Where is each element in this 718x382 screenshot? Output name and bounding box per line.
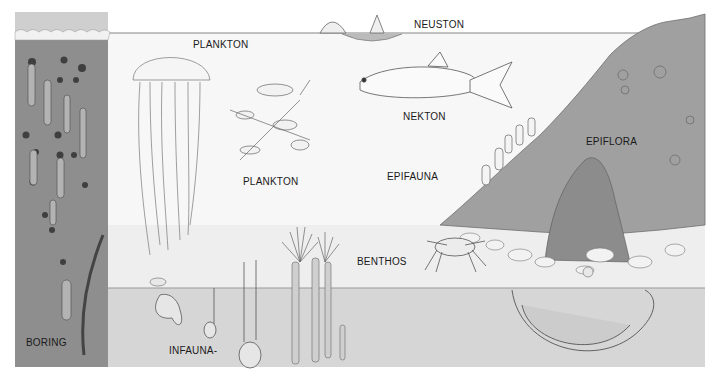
label-plankton-mid: PLANKTON [243, 176, 298, 187]
neuston-float [320, 22, 346, 33]
neuston-sail [370, 15, 384, 33]
label-boring: BORING [26, 337, 67, 348]
label-infauna: INFAUNA- [169, 345, 217, 356]
label-epiflora: EPIFLORA [586, 136, 637, 147]
label-nekton: NEKTON [403, 111, 446, 122]
label-benthos: BENTHOS [357, 256, 407, 267]
label-plankton-top: PLANKTON [193, 39, 248, 50]
label-neuston: NEUSTON [414, 19, 464, 30]
label-epifauna: EPIFAUNA [387, 171, 438, 182]
pier-sky-gradient [15, 12, 108, 32]
marine-zones-illustration [0, 0, 718, 382]
